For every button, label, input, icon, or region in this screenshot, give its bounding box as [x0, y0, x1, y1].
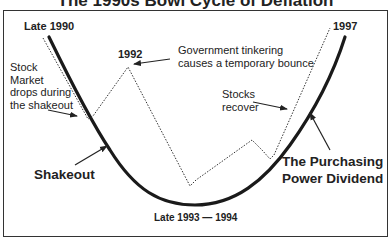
- annotation-stocks-recover: Stocks recover: [222, 88, 259, 113]
- bowl-cycle-diagram: [0, 0, 391, 245]
- annotation-line: Government tinkering: [178, 44, 314, 57]
- label-shakeout: Shakeout: [34, 167, 95, 183]
- label-late-1993-1994: Late 1993 — 1994: [154, 212, 237, 224]
- arrow-dividend: [310, 113, 330, 150]
- label-1992: 1992: [118, 48, 142, 61]
- annotation-line: Market: [10, 74, 73, 87]
- arrow-shakeout: [75, 146, 107, 165]
- annotation-line: Stock: [10, 61, 73, 74]
- annotation-stock-market-drops: Stock Market drops during the shakeout: [10, 61, 73, 112]
- annotation-line: drops during: [10, 86, 73, 99]
- annotation-government-tinkering: Government tinkering causes a temporary …: [178, 44, 314, 69]
- label-purchasing-power-dividend: The Purchasing Power Dividend: [282, 154, 383, 188]
- annotation-line: causes a temporary bounce: [178, 57, 314, 70]
- label-late-1990: Late 1990: [24, 20, 74, 33]
- annotation-line: Stocks: [222, 88, 259, 101]
- annotation-line: the shakeout: [10, 99, 73, 112]
- annotation-line: recover: [222, 101, 259, 114]
- label-1997: 1997: [333, 20, 357, 33]
- annotation-line: The Purchasing: [282, 154, 383, 171]
- annotation-line: Power Dividend: [282, 171, 383, 188]
